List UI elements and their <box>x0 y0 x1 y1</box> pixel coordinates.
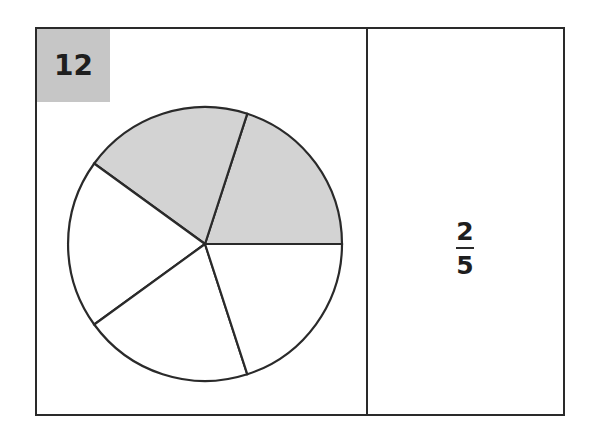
fraction: 2 5 <box>442 219 488 278</box>
fraction-numerator: 2 <box>456 219 473 247</box>
fraction-denominator: 5 <box>456 249 473 278</box>
pie-slices <box>68 107 342 381</box>
fraction-card: 12 2 5 <box>35 27 565 416</box>
pie-chart <box>37 29 367 414</box>
card-divider <box>366 29 368 414</box>
